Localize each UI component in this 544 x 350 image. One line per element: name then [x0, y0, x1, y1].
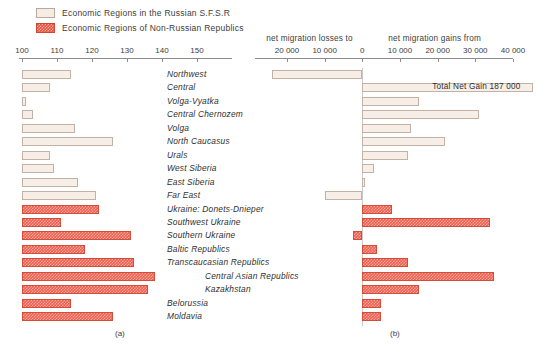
region-label: Central	[167, 82, 195, 92]
bar-panel-a[interactable]	[22, 299, 71, 308]
axis-tick-label-a: 120	[85, 46, 98, 55]
axis-tick-label-b: 30 000	[463, 46, 487, 55]
bar-panel-a[interactable]	[22, 178, 78, 187]
bar-panel-b[interactable]	[362, 258, 407, 267]
region-label: Far East	[167, 190, 200, 200]
region-label: Kazakhstan	[205, 284, 251, 294]
axis-tick-a	[127, 59, 128, 62]
region-label: Southwest Ukraine	[167, 217, 241, 227]
bar-panel-a[interactable]	[22, 83, 50, 92]
legend: Economic Regions in the Russian S.F.S.R …	[36, 6, 244, 36]
panel-label-a: (a)	[115, 329, 125, 338]
bar-panel-b[interactable]	[362, 151, 407, 160]
panel-label-b: (b)	[390, 329, 400, 338]
bar-panel-a[interactable]	[22, 231, 131, 240]
bar-panel-b[interactable]	[362, 137, 445, 146]
axis-tick-label-b: 10 000	[388, 46, 412, 55]
axis-tick-b	[400, 59, 401, 62]
legend-item-russian-sfsr: Economic Regions in the Russian S.F.S.R	[36, 6, 244, 19]
bar-panel-a[interactable]	[22, 205, 99, 214]
region-label: Central Asian Republics	[205, 271, 299, 281]
bar-panel-a[interactable]	[22, 312, 113, 321]
region-label: Belorussia	[167, 298, 208, 308]
axis-title-gains: net migration gains from	[388, 34, 481, 43]
bar-panel-b[interactable]	[362, 124, 411, 133]
bar-panel-a[interactable]	[22, 137, 113, 146]
bar-panel-a[interactable]	[22, 285, 148, 294]
bar-panel-b[interactable]	[325, 191, 363, 200]
bar-panel-a[interactable]	[22, 151, 50, 160]
chart-page: Economic Regions in the Russian S.F.S.R …	[0, 0, 544, 350]
axis-title-losses: net migration losses to	[266, 34, 353, 43]
region-label: West Siberia	[167, 163, 217, 173]
axis-tick-b	[325, 59, 326, 62]
bar-panel-a[interactable]	[22, 124, 75, 133]
bar-panel-b[interactable]	[362, 299, 381, 308]
bar-panel-b[interactable]	[362, 97, 419, 106]
axis-tick-label-a: 100	[15, 46, 28, 55]
region-label: North Caucasus	[167, 136, 230, 146]
region-label: Central Chernozem	[167, 109, 243, 119]
bar-panel-a[interactable]	[22, 164, 54, 173]
axis-tick-b	[438, 59, 439, 62]
bar-panel-a[interactable]	[22, 245, 85, 254]
bar-panel-b[interactable]	[362, 205, 392, 214]
bar-panel-a[interactable]	[22, 272, 155, 281]
bar-panel-a[interactable]	[22, 191, 96, 200]
axis-tick-label-b: 20 000	[425, 46, 449, 55]
axis-line-b	[255, 58, 513, 59]
region-label: Moldavia	[167, 311, 202, 321]
bar-panel-b[interactable]	[362, 178, 365, 187]
region-label: Volga	[167, 123, 189, 133]
axis-tick-label-a: 140	[155, 46, 168, 55]
legend-label-russian-sfsr: Economic Regions in the Russian S.F.S.R	[62, 8, 230, 18]
axis-tick-a	[22, 59, 23, 62]
axis-line-a	[19, 58, 232, 59]
axis-tick-label-a: 130	[120, 46, 133, 55]
region-label: Ukraine: Donets-Dnieper	[167, 204, 264, 214]
bar-panel-b[interactable]	[362, 218, 490, 227]
region-label: East Siberia	[167, 177, 215, 187]
legend-swatch-red	[36, 23, 55, 33]
bar-panel-b[interactable]	[362, 272, 494, 281]
axis-tick-a	[162, 59, 163, 62]
axis-tick-b	[475, 59, 476, 62]
axis-tick-a	[57, 59, 58, 62]
axis-tick-label-b: 10 000	[312, 46, 336, 55]
axis-tick-label-a: 150	[190, 46, 203, 55]
axis-tick-b	[362, 59, 363, 62]
region-label: Volga-Vyatka	[167, 96, 219, 106]
region-label: Baltic Republics	[167, 244, 230, 254]
bar-panel-b[interactable]	[272, 70, 362, 79]
bar-panel-a[interactable]	[22, 97, 26, 106]
region-label: Transcaucasian Republics	[167, 257, 269, 267]
legend-label-non-russian: Economic Regions of Non-Russian Republic…	[62, 23, 244, 33]
axis-tick-a	[92, 59, 93, 62]
bar-panel-b[interactable]	[353, 231, 362, 240]
region-label: Northwest	[167, 69, 207, 79]
legend-swatch-light	[36, 8, 55, 18]
bar-panel-b[interactable]	[362, 245, 377, 254]
axis-tick-label-b: 0	[360, 46, 364, 55]
bar-panel-b[interactable]	[362, 285, 419, 294]
bar-panel-a[interactable]	[22, 70, 71, 79]
axis-tick-b	[287, 59, 288, 62]
bar-panel-b[interactable]	[362, 110, 479, 119]
bar-panel-a[interactable]	[22, 218, 61, 227]
bar-panel-b[interactable]	[362, 312, 381, 321]
total-net-gain-annotation: Total Net Gain 187 000	[432, 82, 520, 91]
axis-tick-label-a: 110	[51, 46, 64, 55]
axis-tick-b	[513, 59, 514, 62]
legend-item-non-russian: Economic Regions of Non-Russian Republic…	[36, 21, 244, 34]
axis-tick-label-b: 20 000	[275, 46, 299, 55]
region-label: Urals	[167, 150, 188, 160]
axis-tick-a	[197, 59, 198, 62]
axis-tick-label-b: 40 000	[501, 46, 525, 55]
region-label: Southern Ukraine	[167, 230, 235, 240]
bar-panel-a[interactable]	[22, 258, 134, 267]
bar-panel-a[interactable]	[22, 110, 33, 119]
bar-panel-b[interactable]	[362, 164, 373, 173]
